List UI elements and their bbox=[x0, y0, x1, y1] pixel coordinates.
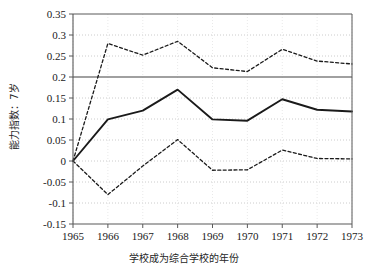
y-axis-tick-label: 0.3 bbox=[52, 29, 66, 41]
axis-tick-labels: 0.350.30.250.20.150.10.050-0.05-0.1-0.15… bbox=[43, 8, 363, 242]
y-axis-tick-label: 0.2 bbox=[52, 71, 66, 83]
x-axis-tick-label: 1973 bbox=[341, 230, 364, 242]
y-axis-tick-label: 0 bbox=[61, 155, 67, 167]
y-axis-tick-label: -0.15 bbox=[43, 218, 66, 230]
data-series bbox=[73, 41, 352, 194]
y-axis-title-text: 能力指数：7岁 bbox=[6, 83, 21, 149]
y-axis-title: 能力指数：7岁 bbox=[2, 0, 24, 232]
x-axis-tick-label: 1967 bbox=[132, 230, 155, 242]
x-axis-tick-label: 1965 bbox=[62, 230, 85, 242]
x-axis-tick-label: 1972 bbox=[306, 230, 328, 242]
y-axis-tick-label: -0.1 bbox=[49, 197, 66, 209]
y-axis-tick-label: 0.05 bbox=[47, 134, 67, 146]
x-axis-tick-label: 1969 bbox=[202, 230, 225, 242]
y-axis-tick-label: 0.25 bbox=[47, 50, 67, 62]
chart-figure: 能力指数：7岁 0.350.30.250.20.150.10.050-0.05-… bbox=[0, 0, 368, 271]
y-axis-tick-label: 0.1 bbox=[52, 113, 66, 125]
x-axis-tick-label: 1968 bbox=[167, 230, 190, 242]
y-axis-tick-label: 0.35 bbox=[47, 8, 67, 20]
x-axis-title: 学校成为综合学校的年份 bbox=[0, 250, 368, 265]
x-axis-tick-label: 1970 bbox=[236, 230, 259, 242]
y-axis-tick-label: 0.15 bbox=[47, 92, 67, 104]
x-axis-tick-label: 1966 bbox=[97, 230, 120, 242]
line-chart-plot: 0.350.30.250.20.150.10.050-0.05-0.1-0.15… bbox=[0, 0, 368, 271]
axis-ticks bbox=[69, 14, 352, 228]
y-axis-tick-label: -0.05 bbox=[43, 176, 66, 188]
x-axis-tick-label: 1971 bbox=[271, 230, 293, 242]
